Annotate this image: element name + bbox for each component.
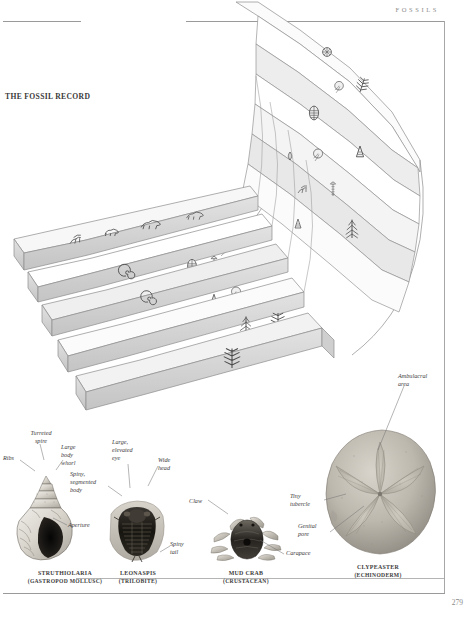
- page-number: 279: [452, 598, 463, 607]
- caption-mud-crab-name: MUD CRAB: [229, 570, 264, 576]
- caption-leonaspis-name: LEONASPIS: [120, 570, 156, 576]
- caption-mud-crab-group: (CRUSTACEAN): [198, 578, 294, 586]
- caption-clypeaster: CLYPEASTER (ECHINODERM): [322, 564, 434, 580]
- book-page: FOSSILS THE FOSSIL RECORD 279: [0, 0, 467, 621]
- caption-clypeaster-group: (ECHINODERM): [322, 572, 434, 580]
- caption-leonaspis: LEONASPIS (TRILOBITE): [90, 570, 186, 586]
- caption-leonaspis-group: (TRILOBITE): [90, 578, 186, 586]
- caption-clypeaster-name: CLYPEASTER: [357, 564, 399, 570]
- specimen-row: Turreted spire Ribs Large body whorl Ape…: [0, 424, 467, 594]
- clypeaster-leader-lines: [280, 364, 460, 574]
